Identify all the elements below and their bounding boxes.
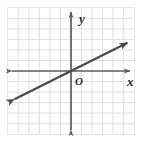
coordinate-plane-figure: y x O (0, 0, 142, 142)
y-axis-label: y (77, 11, 85, 26)
x-axis-label: x (126, 74, 134, 89)
origin-label: O (75, 75, 83, 87)
graph-canvas: y x O (0, 0, 142, 142)
